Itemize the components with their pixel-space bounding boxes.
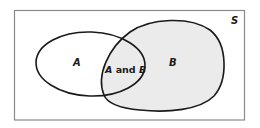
universe-label: S [231,15,238,26]
intersection-label: A and B [104,64,146,75]
intersection-label-and: and [112,64,139,75]
intersection-label-b: B [139,64,146,75]
set-b-label: B [169,57,177,68]
intersection-label-a: A [104,64,112,75]
set-a-label: A [72,57,81,68]
venn-diagram: A A and B B S [0,0,260,128]
